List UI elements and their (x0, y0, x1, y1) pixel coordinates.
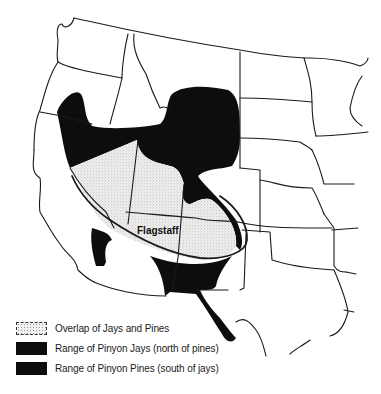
overlap-swatch (16, 322, 47, 335)
map-legend: Overlap of Jays and Pines Range of Pinyo… (16, 318, 219, 378)
legend-item-overlap: Overlap of Jays and Pines (16, 318, 219, 338)
pines-swatch (16, 362, 47, 375)
pines-range-region (91, 228, 112, 266)
legend-label-pines: Range of Pinyon Pines (south of jays) (55, 363, 219, 374)
legend-label-overlap: Overlap of Jays and Pines (55, 323, 169, 334)
legend-item-jays: Range of Pinyon Jays (north of pines) (16, 338, 219, 358)
legend-label-jays: Range of Pinyon Jays (north of pines) (55, 343, 219, 354)
city-label-flagstaff: Flagstaff (137, 225, 179, 236)
jays-swatch (16, 342, 47, 355)
legend-item-pines: Range of Pinyon Pines (south of jays) (16, 358, 219, 378)
